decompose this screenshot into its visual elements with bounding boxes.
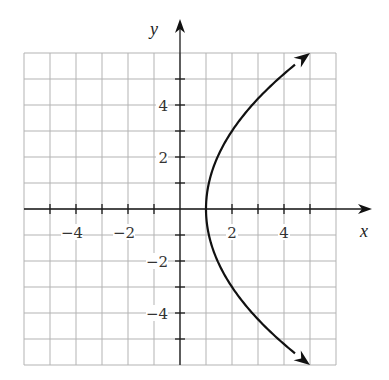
curve-arrow-top-icon xyxy=(294,53,310,67)
y-tick-label: 4 xyxy=(158,97,168,115)
coordinate-plane: −4−22442−2−4 x y xyxy=(0,0,389,380)
curve-arrow-bottom-icon xyxy=(294,351,310,365)
y-axis-label: y xyxy=(148,19,158,39)
x-axis-label: x xyxy=(359,221,368,241)
y-tick-label: 2 xyxy=(158,149,168,167)
x-tick-label: 2 xyxy=(227,224,237,242)
y-tick-label: −2 xyxy=(146,253,168,271)
x-tick-label: −2 xyxy=(113,224,135,242)
x-tick-label: 4 xyxy=(279,224,289,242)
x-tick-label: −4 xyxy=(61,224,83,242)
y-tick-label: −4 xyxy=(146,305,168,323)
